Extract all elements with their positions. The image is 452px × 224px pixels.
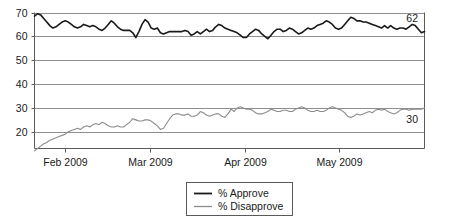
legend-label-disapprove: % Disapprove [218,200,284,212]
approval-rating-chart: 203040506070 Feb 2009Mar 2009Apr 2009May… [0,0,452,224]
endpoint-label-approve: 62 [406,12,418,24]
y-tick-label-70: 70 [16,7,28,19]
y-tick-label-20: 20 [16,126,28,138]
x-tick-label-0: Feb 2009 [43,156,88,168]
y-tick-label-30: 30 [16,102,28,114]
chart-canvas: 203040506070 Feb 2009Mar 2009Apr 2009May… [0,0,452,224]
y-tick-label-40: 40 [16,78,28,90]
x-tick-label-2: Apr 2009 [224,156,267,168]
y-tick-label-50: 50 [16,54,28,66]
x-tick-label-1: Mar 2009 [128,156,173,168]
chart-legend: % Approve % Disapprove [187,183,293,216]
endpoint-label-disapprove: 30 [406,113,418,125]
x-tick-label-3: May 2009 [316,156,362,168]
y-tick-label-60: 60 [16,30,28,42]
legend-label-approve: % Approve [218,187,269,199]
